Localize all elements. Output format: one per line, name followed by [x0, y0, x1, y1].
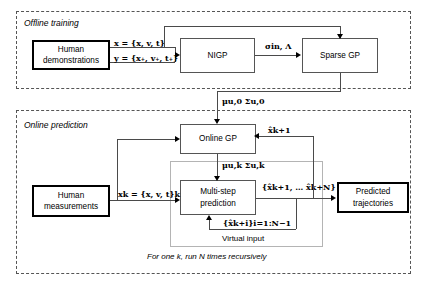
- edge-multistep-to-predicted: [256, 198, 333, 199]
- label-x-hat-set: {x̂k+1, … x̂k+N}: [262, 182, 336, 192]
- arrowhead-onlinegp-to-multistep: [214, 176, 220, 181]
- section-online-prediction-label: Online prediction: [24, 120, 88, 130]
- edge-feedback-to-onlinegp: [259, 136, 313, 137]
- label-sigma-lambda: σin, Λ: [265, 41, 292, 51]
- edge-measurements-out: [110, 200, 177, 201]
- box-nigp-label: NIGP: [207, 50, 227, 61]
- edge-feedback-up: [313, 136, 314, 198]
- diagram-canvas: Offline training Human demonstrations NI…: [0, 0, 427, 285]
- box-online-gp: Online GP: [180, 124, 256, 154]
- arrowhead-multistep-to-predicted: [331, 195, 336, 201]
- edge-sparsegp-to-bridge: [217, 91, 341, 92]
- arrowhead-branch-to-onlinegp: [175, 136, 180, 142]
- arrowhead-nigp-to-sparsegp: [296, 52, 301, 58]
- section-offline-training-label: Offline training: [24, 18, 79, 28]
- box-predicted-line2: trajectories: [353, 198, 393, 209]
- box-human-measurements: Human measurements: [32, 185, 110, 217]
- box-sparse-gp-label: Sparse GP: [320, 50, 360, 61]
- edge-virtual-loop-down: [296, 198, 297, 229]
- arrowhead-virtual-loop-to-multistep: [206, 215, 212, 220]
- edge-sparsegp-down: [340, 73, 341, 91]
- label-virtual-feedback: {x̂k+i}i=1:N−1: [223, 218, 291, 228]
- label-x-input: x = {x, v, t}: [114, 38, 165, 48]
- arrowhead-feedback-to-onlinegp: [254, 133, 259, 139]
- box-human-measurements-line1: Human: [44, 190, 98, 201]
- edge-bypass-up: [164, 26, 165, 48]
- edge-branch-to-onlinegp: [117, 139, 175, 140]
- box-online-gp-label: Online GP: [199, 133, 237, 144]
- edge-virtual-loop-up: [209, 220, 210, 229]
- box-multi-step-line1: Multi-step: [200, 186, 236, 197]
- box-sparse-gp: Sparse GP: [302, 38, 378, 73]
- box-human-demonstrations-line1: Human: [43, 44, 99, 55]
- edge-onlinegp-to-multistep: [217, 154, 218, 178]
- label-x-k: xk = {x, v, t}k: [118, 189, 180, 199]
- box-multi-step-prediction: Multi-step prediction: [180, 180, 256, 215]
- label-recursion-note: For one k, run N times recursively: [147, 252, 267, 261]
- label-x-hat-k1: x̂k+1: [268, 125, 291, 135]
- edge-virtual-loop-bottom: [209, 229, 296, 230]
- box-nigp: NIGP: [180, 38, 255, 73]
- label-y-input: y = {x₊, v₊, t₊}: [114, 53, 178, 63]
- box-predicted-trajectories: Predicted trajectories: [337, 182, 409, 213]
- box-human-demonstrations-line2: demonstrations: [43, 55, 99, 66]
- label-virtual-input: Virtual input: [222, 234, 264, 243]
- box-predicted-line1: Predicted: [353, 186, 393, 197]
- label-mu-sigma-u0: μu,0 Σu,0: [222, 96, 265, 106]
- box-human-demonstrations: Human demonstrations: [32, 40, 110, 70]
- edge-bypass-top: [164, 26, 341, 27]
- box-human-measurements-line2: measurements: [44, 201, 98, 212]
- label-mu-sigma-uk: μu,k Σu,k: [222, 160, 265, 170]
- arrowhead-bypass-to-sparsegp: [337, 34, 343, 39]
- edge-nigp-to-sparsegp: [255, 55, 297, 56]
- box-multi-step-line2: prediction: [200, 198, 236, 209]
